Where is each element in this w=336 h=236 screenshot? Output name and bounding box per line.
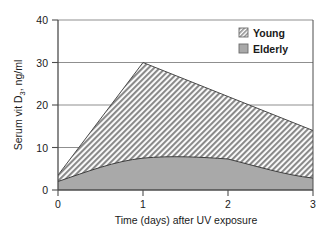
legend-swatch-elderly[interactable] <box>239 44 248 53</box>
x-tick-label-2: 2 <box>225 198 231 210</box>
legend-label-young: Young <box>253 27 285 39</box>
legend-label-elderly: Elderly <box>253 43 288 55</box>
y-tick-label-40: 40 <box>36 14 48 26</box>
legend-swatch-young[interactable] <box>239 28 248 37</box>
y-tick-label-0: 0 <box>42 184 48 196</box>
y-tick-label-20: 20 <box>36 99 48 111</box>
y-tick-label-10: 10 <box>36 142 48 154</box>
x-tick-label-0: 0 <box>55 198 61 210</box>
chart-figure: 40 30 20 10 0 0 1 2 3 Time (days) after … <box>0 0 336 236</box>
serum-vitamin-d3-area-chart: 40 30 20 10 0 0 1 2 3 Time (days) after … <box>0 0 336 236</box>
y-axis-title-tail: , ng/ml <box>12 60 24 92</box>
x-tick-label-1: 1 <box>140 198 146 210</box>
x-tick-label-3: 3 <box>310 198 316 210</box>
y-tick-label-30: 30 <box>36 57 48 69</box>
x-axis-title: Time (days) after UV exposure <box>115 214 258 226</box>
y-axis-title-main: Serum vit D <box>12 95 24 150</box>
